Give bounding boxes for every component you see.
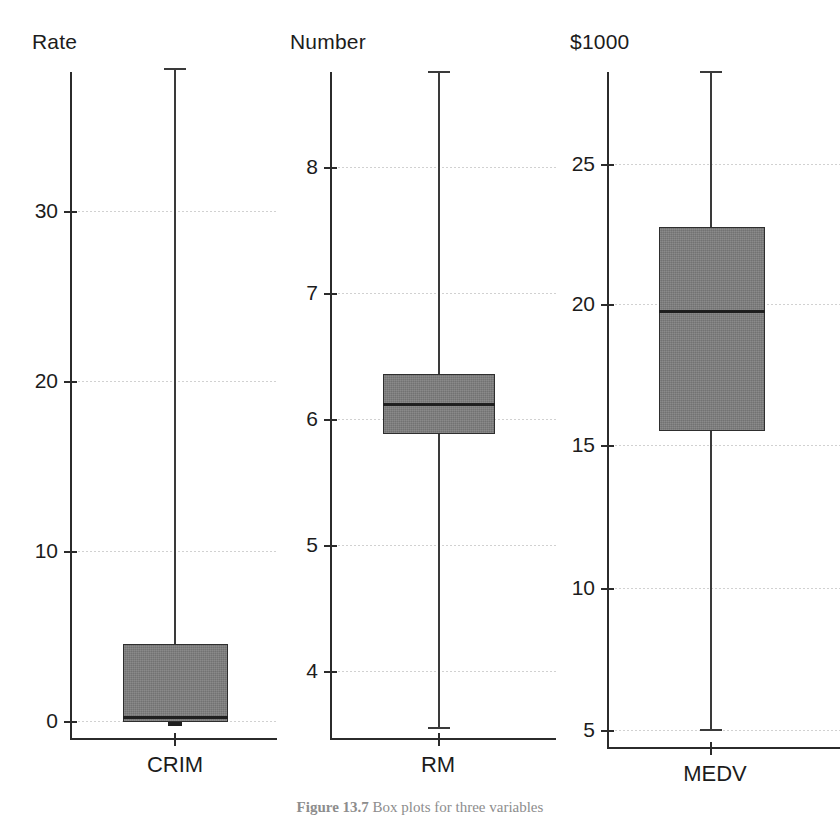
panel-crim: Rate 30 20 10 0 CRIM [0, 0, 280, 809]
x-tick-rm [438, 733, 440, 746]
gridline-rm-8 [330, 167, 556, 168]
x-axis-medv [607, 747, 840, 749]
tick-medv-15 [601, 445, 614, 447]
unit-label-rm: Number [290, 30, 366, 54]
category-label-crim: CRIM [105, 752, 245, 778]
tick-label-crim-0: 0 [0, 709, 58, 733]
figure-caption: Figure 13.7 Box plots for three variable… [0, 799, 840, 816]
tick-rm-6 [324, 419, 337, 421]
y-axis-medv [607, 72, 609, 747]
tick-label-crim-20: 20 [0, 369, 58, 393]
category-label-medv: MEDV [640, 761, 790, 787]
tick-label-medv-10: 10 [560, 576, 595, 600]
tick-label-medv-5: 5 [560, 718, 595, 742]
median-medv [659, 310, 765, 313]
tick-crim-20 [64, 381, 77, 383]
category-label-rm: RM [373, 752, 503, 778]
gridline-rm-7 [330, 293, 556, 294]
x-tick-medv [710, 742, 712, 755]
tick-label-medv-15: 15 [560, 433, 595, 457]
whisker-cap-medv-lower [700, 729, 722, 731]
x-tick-crim [174, 733, 176, 746]
median-rm [383, 403, 495, 406]
figure-caption-number: Figure 13.7 [297, 799, 369, 815]
tick-medv-10 [601, 588, 614, 590]
panel-rm: Number 8 7 6 5 4 RM [280, 0, 560, 809]
whisker-cap-rm-lower [428, 727, 450, 729]
gridline-rm-5 [330, 545, 556, 546]
tick-label-rm-6: 6 [280, 407, 318, 431]
unit-label-crim: Rate [32, 30, 77, 54]
tick-label-rm-7: 7 [280, 281, 318, 305]
tick-label-rm-4: 4 [280, 659, 318, 683]
gridline-medv-5 [607, 730, 840, 731]
gridline-medv-15 [607, 445, 840, 446]
tick-label-crim-10: 10 [0, 539, 58, 563]
y-axis-rm [330, 72, 332, 738]
tick-medv-5 [601, 730, 614, 732]
whisker-cap-crim-upper [164, 68, 186, 70]
whisker-crim-upper [174, 68, 176, 722]
tick-label-crim-30: 30 [0, 199, 58, 223]
whisker-cap-rm-upper [428, 71, 450, 73]
gridline-medv-10 [607, 588, 840, 589]
tick-crim-0 [64, 721, 77, 723]
whisker-cap-crim-lower [168, 722, 182, 726]
tick-medv-20 [601, 304, 614, 306]
gridline-rm-4 [330, 671, 556, 672]
x-axis-rm [330, 738, 556, 740]
unit-label-medv: $1000 [570, 30, 629, 54]
tick-label-rm-8: 8 [280, 155, 318, 179]
tick-medv-25 [601, 164, 614, 166]
box-medv [659, 227, 765, 431]
panel-medv: $1000 25 20 15 10 5 MEDV [560, 0, 840, 809]
whisker-cap-medv-upper [700, 71, 722, 73]
box-crim [123, 644, 228, 722]
tick-label-rm-5: 5 [280, 533, 318, 557]
tick-rm-8 [324, 167, 337, 169]
tick-label-medv-25: 25 [560, 152, 595, 176]
gridline-medv-25 [607, 164, 840, 165]
median-crim [123, 716, 228, 719]
tick-label-medv-20: 20 [560, 292, 595, 316]
tick-rm-5 [324, 545, 337, 547]
tick-rm-4 [324, 671, 337, 673]
tick-crim-10 [64, 551, 77, 553]
figure-caption-text: Box plots for three variables [373, 799, 544, 815]
tick-rm-7 [324, 293, 337, 295]
tick-crim-30 [64, 211, 77, 213]
y-axis-crim [70, 72, 72, 738]
